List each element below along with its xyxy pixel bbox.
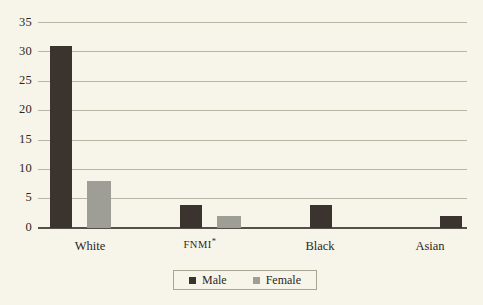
footnote-marker-icon: * (212, 236, 217, 246)
x-axis-label-black: Black (280, 240, 360, 253)
legend-entry-male: Male (189, 274, 227, 286)
gridline-15 (38, 140, 467, 141)
y-axis-tick-35: 35 (0, 16, 32, 29)
legend-label-male: Male (202, 274, 227, 286)
bar-asian-male (440, 216, 462, 228)
legend: Male Female (173, 270, 317, 290)
y-axis-tick-5: 5 (0, 191, 32, 204)
x-axis-label-fnmi-text: FNMI (183, 239, 211, 250)
bar-white-female (87, 181, 111, 228)
y-axis-tick-0: 0 (0, 221, 32, 234)
gridline-25 (38, 81, 467, 82)
y-axis-tick-25: 25 (0, 74, 32, 87)
bar-chart: 35 30 25 20 15 10 5 0 White FNMI* Black … (0, 0, 483, 305)
gridline-35 (38, 22, 467, 23)
x-axis-label-fnmi: FNMI* (155, 240, 245, 251)
y-axis-tick-15: 15 (0, 133, 32, 146)
plot-area (38, 22, 467, 228)
legend-swatch-male-icon (189, 277, 196, 284)
y-axis-tick-30: 30 (0, 45, 32, 58)
bar-fnmi-female (217, 216, 241, 228)
legend-entry-female: Female (253, 274, 301, 286)
y-axis-tick-20: 20 (0, 103, 32, 116)
legend-label-female: Female (266, 274, 301, 286)
gridline-20 (38, 110, 467, 111)
gridline-10 (38, 169, 467, 170)
bar-fnmi-male (180, 205, 202, 229)
bar-black-male (310, 205, 332, 229)
legend-swatch-female-icon (253, 277, 260, 284)
y-axis-tick-10: 10 (0, 162, 32, 175)
x-axis-label-white: White (50, 240, 130, 253)
x-axis-label-asian: Asian (390, 240, 470, 253)
bar-white-male (50, 46, 72, 228)
gridline-30 (38, 51, 467, 52)
